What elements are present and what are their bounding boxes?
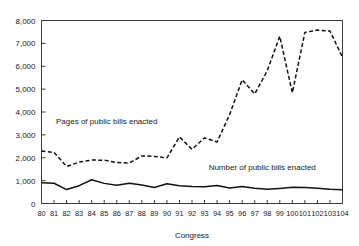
x-axis-tick-label: 99 <box>276 209 284 218</box>
x-axis-tick-label: 82 <box>62 209 70 218</box>
x-axis-tick-label: 104 <box>336 209 348 218</box>
x-axis-tick-label: 93 <box>200 209 208 218</box>
y-axis-tick-label: 2,000 <box>15 154 36 163</box>
x-axis-tick-label: 101 <box>299 209 311 218</box>
y-axis-tick-labels: 8,0007,0006,0005,0004,0003,0002,0001,000… <box>15 17 36 209</box>
y-axis-tick-label: 7,000 <box>15 39 36 48</box>
x-axis-tick-label: 100 <box>286 209 298 218</box>
y-axis-tick-label: 6,000 <box>15 62 36 71</box>
x-axis-tick-label: 94 <box>213 209 221 218</box>
x-axis-tick-label: 90 <box>163 209 171 218</box>
x-axis-tick-label: 96 <box>238 209 246 218</box>
x-axis-tick-label: 103 <box>324 209 336 218</box>
x-axis-tick-label: 95 <box>226 209 234 218</box>
x-axis-tick-label: 81 <box>50 209 58 218</box>
y-axis-tick-label: 1,000 <box>15 177 36 186</box>
x-axis-tick-label: 92 <box>188 209 196 218</box>
y-axis-tick-label: 4,000 <box>15 108 36 117</box>
x-axis-tick-label: 84 <box>88 209 96 218</box>
y-axis-tick-label: 3,000 <box>15 131 36 140</box>
y-axis-tick-label: 5,000 <box>15 85 36 94</box>
x-axis-tick-label: 87 <box>125 209 133 218</box>
chart-container: 8,0007,0006,0005,0004,0003,0002,0001,000… <box>0 0 359 246</box>
line-chart: 8,0007,0006,0005,0004,0003,0002,0001,000… <box>0 0 359 246</box>
x-axis-title: Congress <box>175 231 209 240</box>
x-axis-tick-label: 88 <box>138 209 146 218</box>
x-axis-tick-label: 83 <box>75 209 83 218</box>
x-axis-tick-label: 98 <box>263 209 271 218</box>
y-axis-tick-label: 8,000 <box>15 17 36 26</box>
series-label: Number of public bills enacted <box>209 163 316 172</box>
x-axis-tick-label: 91 <box>175 209 183 218</box>
y-axis-tick-label: 0 <box>31 200 36 209</box>
x-axis-tick-label: 89 <box>150 209 158 218</box>
x-axis-tick-label: 97 <box>251 209 259 218</box>
x-axis-tick-label: 80 <box>37 209 45 218</box>
x-axis-tick-label: 102 <box>311 209 323 218</box>
x-axis-tick-label: 85 <box>100 209 108 218</box>
x-axis-tick-label: 86 <box>113 209 121 218</box>
series-label: Pages of public bills enacted <box>56 117 157 126</box>
